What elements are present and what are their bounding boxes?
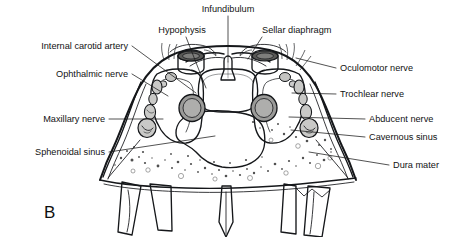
label-infundibulum: Infundibulum <box>202 4 255 14</box>
right-internal-carotid-artery <box>251 95 277 122</box>
panel-letter: B <box>44 203 55 222</box>
label-group-top: Infundibulum Hypophysis Sellar diaphragm <box>158 4 332 35</box>
pterygoid-processes <box>100 178 356 237</box>
right-nerve-ophthalmic <box>300 119 318 138</box>
right-nerve-oculomotor <box>294 80 304 94</box>
left-internal-carotid-artery <box>179 95 205 122</box>
label-oculomotor-nerve: Oculomotor nerve <box>340 63 413 73</box>
figure-illustration: Infundibulum Hypophysis Sellar diaphragm… <box>0 0 449 237</box>
label-abducent-nerve: Abducent nerve <box>369 114 433 124</box>
label-group-left: Internal carotid artery Ophthalmic nerve… <box>35 41 128 157</box>
label-cavernous-sinus: Cavernous sinus <box>369 132 438 142</box>
label-ophthalmic-nerve: Ophthalmic nerve <box>56 69 128 79</box>
label-dura-mater: Dura mater <box>393 160 439 170</box>
label-hypophysis: Hypophysis <box>158 25 206 35</box>
label-group-right: Oculomotor nerve Trochlear nerve Abducen… <box>340 63 439 170</box>
label-sellar-diaphragm: Sellar diaphragm <box>262 25 332 35</box>
right-nerve-trochlear <box>299 93 307 104</box>
label-sphenoidal-sinus: Sphenoidal sinus <box>35 147 105 157</box>
left-nerve-maxillary <box>138 119 156 138</box>
left-nerve-trochlear <box>149 93 157 104</box>
label-maxillary-nerve: Maxillary nerve <box>43 114 105 124</box>
label-internal-carotid-artery: Internal carotid artery <box>41 41 128 51</box>
left-nerve-ophthalmic <box>144 105 155 120</box>
label-trochlear-nerve: Trochlear nerve <box>340 89 404 99</box>
anatomical-figure: Infundibulum Hypophysis Sellar diaphragm… <box>0 0 449 237</box>
